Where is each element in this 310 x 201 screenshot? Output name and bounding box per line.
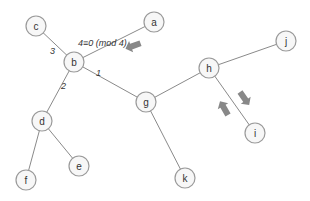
node-k: k: [175, 168, 195, 188]
edge-label-b-g: 1: [96, 68, 101, 78]
node-g: g: [136, 92, 156, 112]
node-i: i: [245, 123, 265, 143]
arrow-up-left-icon: [215, 98, 233, 118]
node-label: c: [34, 21, 39, 32]
node-label: j: [284, 36, 287, 47]
node-b: b: [64, 52, 84, 72]
arrow-down-right-icon: [235, 89, 254, 109]
edge-h-j: [209, 41, 286, 68]
node-c: c: [26, 16, 46, 36]
node-f: f: [16, 170, 36, 190]
node-label: e: [76, 161, 82, 172]
node-label: i: [254, 128, 256, 139]
edge-label-b-d: 2: [60, 81, 66, 91]
node-h: h: [199, 58, 219, 78]
node-d: d: [32, 111, 52, 131]
edge-g-h: [146, 68, 209, 102]
edge-b-g: [74, 62, 146, 102]
node-j: j: [276, 31, 296, 51]
edge-g-k: [146, 102, 185, 178]
edge-label-b-c: 3: [50, 46, 55, 56]
tree-diagram: 3 2 1 4≡0 (mod 4) abcdefghijk: [0, 0, 310, 201]
node-label: g: [143, 97, 149, 108]
node-label: a: [151, 17, 157, 28]
node-label: b: [71, 57, 77, 68]
node-e: e: [69, 156, 89, 176]
node-label: h: [206, 63, 212, 74]
node-label: f: [25, 175, 28, 186]
modulo-annotation: 4≡0 (mod 4): [78, 38, 127, 48]
node-label: d: [39, 116, 45, 127]
node-a: a: [144, 12, 164, 32]
